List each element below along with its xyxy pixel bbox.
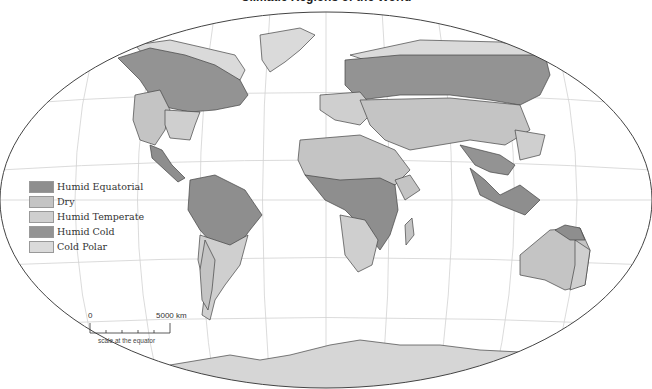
legend-swatch — [29, 196, 54, 208]
legend-label: Humid Equatorial — [57, 181, 143, 192]
scale-ruler — [86, 311, 176, 337]
legend-item-humid-cold: Humid Cold — [29, 224, 144, 239]
legend-item-humid-temperate: Humid Temperate — [29, 209, 144, 224]
legend-label: Humid Temperate — [57, 211, 144, 222]
legend-swatch — [29, 241, 54, 253]
legend-item-cold-polar: Cold Polar — [29, 239, 144, 254]
legend-swatch — [29, 181, 54, 193]
legend-swatch — [29, 211, 54, 223]
legend-label: Humid Cold — [57, 226, 115, 237]
legend-item-humid-equatorial: Humid Equatorial — [29, 179, 144, 194]
scale-caption: scale at the equator — [98, 337, 155, 344]
legend-label: Cold Polar — [57, 241, 107, 252]
legend-swatch — [29, 226, 54, 238]
legend-item-dry: Dry — [29, 194, 144, 209]
map-legend: Humid Equatorial Dry Humid Temperate Hum… — [29, 179, 144, 254]
legend-label: Dry — [57, 196, 75, 207]
